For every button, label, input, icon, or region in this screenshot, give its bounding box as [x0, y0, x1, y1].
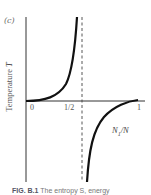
x-tick-half: 1/2: [64, 103, 74, 112]
x-axis-label: N1/N: [112, 125, 129, 137]
y-axis-label-symbol: T: [4, 62, 14, 67]
caption-prefix: FIG. B.1: [12, 187, 38, 194]
y-axis-label-word: Temperature: [4, 67, 14, 112]
x-tick-0: 0: [30, 103, 34, 112]
x-tick-1: 1: [137, 103, 141, 112]
caption-text: The entropy S, energy: [40, 187, 109, 194]
figure: (c) Temperature T 0 1/2 1 N1/N FIG. B.1 …: [0, 0, 151, 195]
panel-label: (c): [4, 16, 15, 25]
figure-caption: FIG. B.1 The entropy S, energy: [12, 187, 110, 194]
chart-svg: [0, 0, 151, 195]
curve-positive-branch: [26, 17, 77, 101]
y-axis-label: Temperature T: [4, 52, 14, 122]
curve-negative-branch: [87, 100, 138, 182]
x-axis-label-denom: /N: [121, 125, 129, 135]
